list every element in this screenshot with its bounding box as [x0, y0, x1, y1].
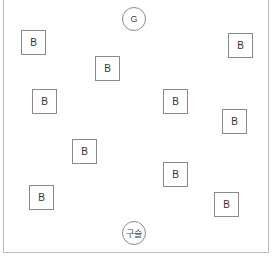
block-label: B [81, 146, 88, 157]
block-label: B [223, 199, 230, 210]
block: B [32, 89, 57, 114]
block: B [29, 185, 54, 210]
block-label: B [38, 192, 45, 203]
block-label: B [172, 96, 179, 107]
block: B [228, 33, 253, 58]
block: B [214, 192, 239, 217]
marble[interactable]: 구슬 [122, 221, 146, 245]
goal-label: G [130, 14, 137, 24]
block-label: B [30, 37, 37, 48]
block-label: B [231, 116, 238, 127]
block: B [163, 162, 188, 187]
block: B [163, 89, 188, 114]
block-label: B [104, 63, 111, 74]
marble-label: 구슬 [126, 227, 142, 240]
block-label: B [237, 40, 244, 51]
block: B [21, 30, 46, 55]
block: B [72, 139, 97, 164]
block-label: B [41, 96, 48, 107]
block: B [222, 109, 247, 134]
goal-marker: G [122, 7, 146, 31]
block: B [95, 56, 120, 81]
block-label: B [172, 169, 179, 180]
